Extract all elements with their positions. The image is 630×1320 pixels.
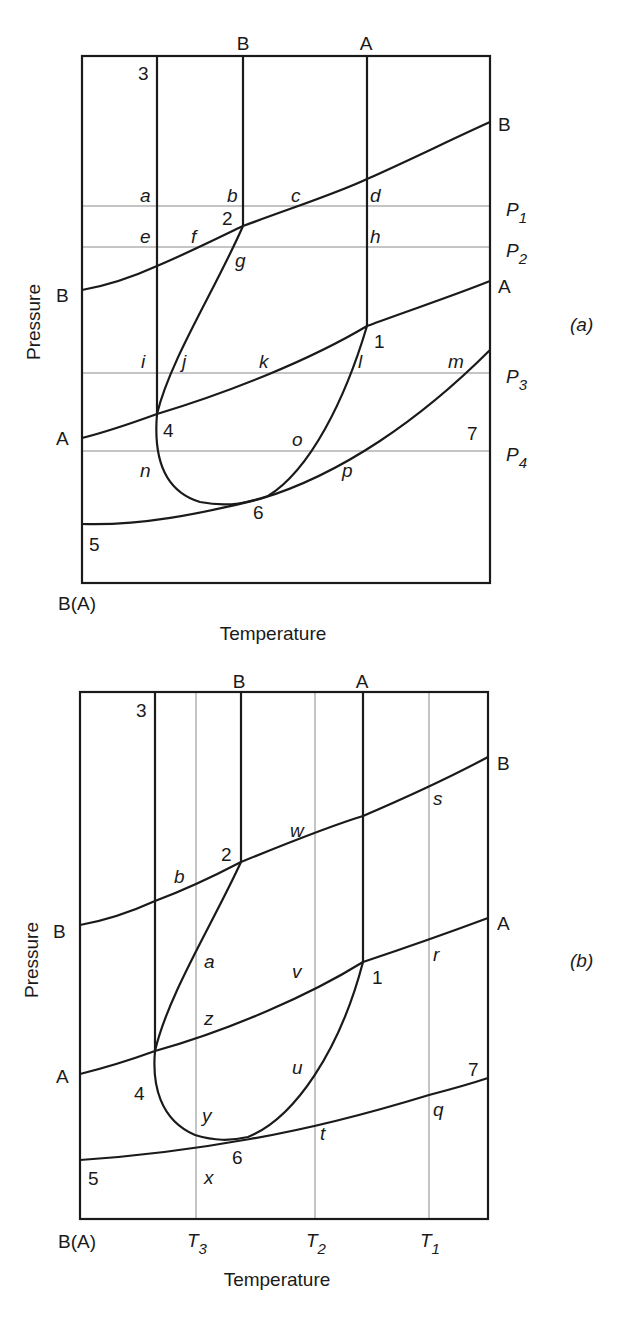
letter-x: x bbox=[203, 1167, 215, 1188]
point-1: 1 bbox=[372, 967, 383, 988]
letter-q: q bbox=[433, 1099, 444, 1120]
letter-h: h bbox=[370, 226, 381, 247]
letter-s: s bbox=[433, 788, 443, 809]
letter-u: u bbox=[292, 1057, 303, 1078]
isobar-label-p4: P4 bbox=[506, 444, 527, 471]
isobar-label-p3: P3 bbox=[506, 366, 528, 393]
curve-b bbox=[80, 757, 488, 925]
letter-r: r bbox=[433, 944, 440, 965]
letter-z: z bbox=[203, 1008, 214, 1029]
letter-p: p bbox=[341, 460, 353, 481]
point-3: 3 bbox=[138, 63, 149, 84]
point-4: 4 bbox=[134, 1083, 145, 1104]
letter-d: d bbox=[370, 185, 382, 206]
point-3: 3 bbox=[136, 700, 147, 721]
point-5: 5 bbox=[89, 534, 100, 555]
right-label-b: B bbox=[498, 114, 511, 135]
letter-t: t bbox=[320, 1123, 326, 1144]
letter-a: a bbox=[204, 951, 215, 972]
point-6: 6 bbox=[232, 1147, 243, 1168]
letter-y: y bbox=[200, 1105, 213, 1126]
letter-n: n bbox=[140, 460, 151, 481]
phase-diagram-figure: B A B A B A P1 P2 P3 P4 3 2 1 4 6 5 7 a … bbox=[0, 0, 630, 1320]
letter-i: i bbox=[141, 351, 146, 372]
origin-label: B(A) bbox=[58, 1231, 96, 1252]
right-label-b: B bbox=[497, 753, 510, 774]
origin-label: B(A) bbox=[58, 593, 96, 614]
isobar-label-p1: P1 bbox=[506, 199, 527, 226]
point-6: 6 bbox=[253, 502, 264, 523]
x-axis-label: Temperature bbox=[220, 623, 327, 644]
top-label-a: A bbox=[360, 33, 373, 54]
letter-w: w bbox=[290, 820, 305, 841]
point-7: 7 bbox=[467, 423, 478, 444]
point-2: 2 bbox=[221, 844, 232, 865]
letter-b: b bbox=[227, 185, 238, 206]
letter-b: b bbox=[174, 866, 185, 887]
plot-frame bbox=[82, 56, 490, 583]
x-axis-label: Temperature bbox=[224, 1269, 331, 1290]
top-label-b: B bbox=[233, 671, 246, 692]
letter-a: a bbox=[140, 185, 151, 206]
panel-tag: (b) bbox=[570, 950, 593, 971]
curve-a bbox=[80, 918, 488, 1074]
top-label-a: A bbox=[356, 671, 369, 692]
letter-l: l bbox=[358, 351, 363, 372]
point-5: 5 bbox=[88, 1168, 99, 1189]
point-7: 7 bbox=[468, 1059, 479, 1080]
isotherm-label-t3: T3 bbox=[187, 1230, 208, 1257]
point-1: 1 bbox=[374, 331, 385, 352]
plot-frame bbox=[80, 692, 488, 1219]
letter-c: c bbox=[291, 185, 301, 206]
letter-f: f bbox=[191, 226, 198, 247]
y-axis-label: Pressure bbox=[23, 284, 44, 360]
point-2: 2 bbox=[222, 208, 233, 229]
letter-o: o bbox=[292, 429, 303, 450]
left-label-a: A bbox=[56, 1066, 69, 1087]
left-label-a: A bbox=[56, 428, 69, 449]
top-label-b: B bbox=[237, 33, 250, 54]
curve-5-6-7 bbox=[82, 350, 490, 524]
left-label-b: B bbox=[53, 921, 66, 942]
right-label-a: A bbox=[498, 276, 511, 297]
isotherm-label-t1: T1 bbox=[420, 1230, 440, 1257]
letter-m: m bbox=[448, 351, 464, 372]
y-axis-label: Pressure bbox=[21, 922, 42, 998]
letter-e: e bbox=[140, 226, 151, 247]
point-4: 4 bbox=[163, 420, 174, 441]
isotherm-label-t2: T2 bbox=[306, 1230, 327, 1257]
left-label-b: B bbox=[56, 285, 69, 306]
panel-tag: (a) bbox=[570, 314, 593, 335]
loop-2-4-6-1 bbox=[154, 862, 363, 1140]
letter-g: g bbox=[235, 250, 246, 271]
letter-v: v bbox=[292, 961, 303, 982]
panel-b: B A B A B A 3 2 1 4 6 5 7 b a w s r v z … bbox=[21, 671, 593, 1290]
panel-a: B A B A B A P1 P2 P3 P4 3 2 1 4 6 5 7 a … bbox=[23, 33, 593, 644]
isobar-label-p2: P2 bbox=[506, 240, 528, 267]
right-label-a: A bbox=[497, 913, 510, 934]
letter-k: k bbox=[259, 351, 270, 372]
